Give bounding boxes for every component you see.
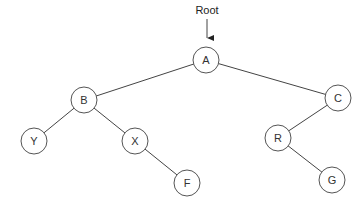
node-label: B: [80, 94, 87, 106]
node-label: F: [184, 177, 191, 189]
root-annotation: Root: [195, 4, 218, 38]
tree-node-r: R: [265, 125, 291, 151]
node-label: A: [202, 54, 210, 66]
edge-a-b: [84, 60, 206, 100]
node-label: X: [131, 135, 139, 147]
tree-node-g: G: [319, 167, 345, 193]
node-label: R: [274, 132, 282, 144]
tree-node-f: F: [174, 170, 200, 196]
edges-group: [34, 60, 338, 183]
edge-a-c: [206, 60, 338, 98]
tree-node-b: B: [71, 87, 97, 113]
node-label: C: [334, 92, 342, 104]
root-label: Root: [195, 4, 218, 16]
tree-node-a: A: [193, 47, 219, 73]
node-label: Y: [30, 135, 38, 147]
tree-diagram: Root ABCYXFRG: [0, 0, 358, 211]
nodes-group: ABCYXFRG: [21, 47, 351, 196]
tree-node-y: Y: [21, 128, 47, 154]
tree-node-x: X: [122, 128, 148, 154]
node-label: G: [328, 174, 337, 186]
tree-node-c: C: [325, 85, 351, 111]
